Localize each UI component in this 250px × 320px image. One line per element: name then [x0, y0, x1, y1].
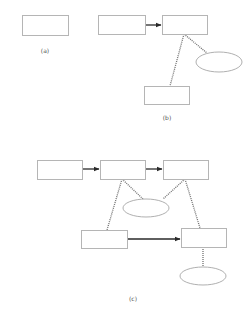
c-box-top-2: [101, 161, 146, 180]
diagram-canvas: [0, 0, 250, 320]
c-ellipse-bottom: [180, 267, 226, 285]
c-link-3-bottom-right-dotted-line: [185, 179, 200, 228]
c-box-top-1: [38, 161, 83, 180]
b-box-bottom: [145, 87, 190, 105]
c-box-bottom-right: [182, 229, 227, 248]
c-link-2-ellipse-dotted-line: [122, 179, 143, 199]
caption-b: (b): [163, 114, 172, 121]
caption-c: (c): [129, 295, 137, 302]
caption-a: (a): [41, 47, 49, 54]
c-link-3-ellipse-dotted-line: [163, 179, 185, 199]
a-box-1: [23, 16, 69, 36]
b-ellipse: [196, 52, 242, 72]
b-link-box-bottom-dotted-line: [170, 34, 184, 86]
b-link-ellipse-dotted-line: [184, 34, 207, 53]
c-box-bottom-left: [82, 231, 128, 249]
b-box-right: [163, 16, 208, 35]
c-ellipse-middle: [123, 199, 169, 217]
c-box-top-3: [164, 161, 209, 180]
c-link-2-bottom-left-dotted-line: [107, 179, 122, 230]
b-box-left: [99, 16, 146, 35]
